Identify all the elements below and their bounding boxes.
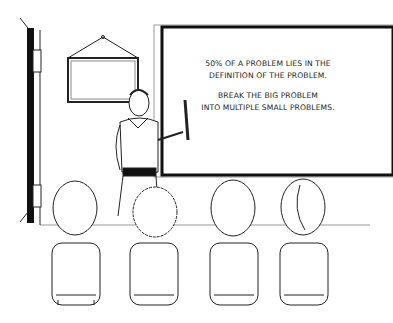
board-line-1: 50% OF A PROBLEM LIES IN THE <box>205 59 330 68</box>
board-line-4: INTO MULTIPLE SMALL PROBLEMS. <box>201 103 334 112</box>
whiteboard-text: 50% OF A PROBLEM LIES IN THEDEFINITION O… <box>168 58 368 122</box>
student-1 <box>52 181 100 305</box>
classroom-illustration <box>0 0 393 323</box>
wall-picture <box>68 58 138 102</box>
wall-picture-string <box>68 37 138 58</box>
student-4 <box>280 179 328 305</box>
student-2 <box>130 187 178 305</box>
student-3 <box>210 180 258 305</box>
board-line-2: DEFINITION OF THE PROBLEM. <box>209 71 327 80</box>
board-line-3: BREAK THE BIG PROBLEM <box>218 91 318 100</box>
